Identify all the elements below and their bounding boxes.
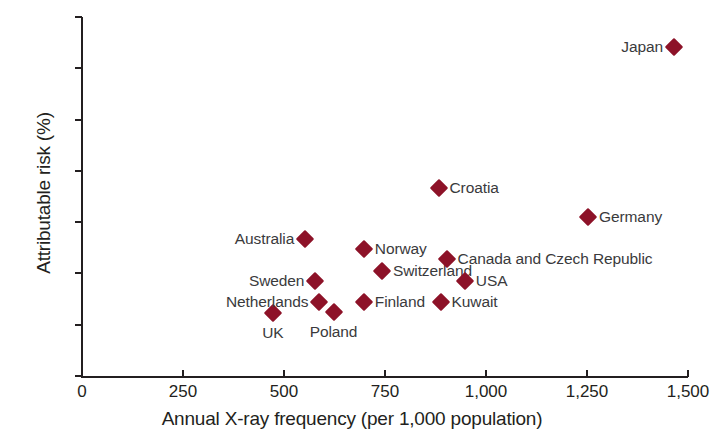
x-tick-mark: [283, 370, 285, 377]
data-point-marker[interactable]: [431, 293, 449, 311]
data-point-marker[interactable]: [296, 229, 314, 247]
x-tick-label: 500: [239, 382, 329, 402]
data-point-label: Poland: [310, 323, 358, 341]
data-point-marker[interactable]: [373, 262, 391, 280]
x-tick-label: 1,250: [542, 382, 632, 402]
data-point-marker[interactable]: [665, 38, 683, 56]
data-point-label: Kuwait: [452, 293, 498, 311]
x-tick-mark: [687, 370, 689, 377]
data-point-marker[interactable]: [306, 271, 324, 289]
y-tick-mark: [75, 324, 82, 326]
data-point-label: UK: [262, 324, 283, 342]
y-tick-mark: [75, 119, 82, 121]
y-tick-mark: [75, 170, 82, 172]
data-point-marker[interactable]: [355, 240, 373, 258]
y-tick-mark: [75, 67, 82, 69]
data-point-label: Croatia: [450, 179, 499, 197]
data-point-label: Netherlands: [226, 293, 308, 311]
y-axis-title: Attributable risk (%): [33, 3, 55, 383]
data-point-label: Finland: [375, 293, 425, 311]
data-point-label: Japan: [621, 38, 663, 56]
y-tick-mark: [75, 272, 82, 274]
data-point-label: Sweden: [249, 272, 304, 290]
x-tick-label: 1,000: [441, 382, 531, 402]
data-point-marker[interactable]: [324, 303, 342, 321]
data-point-marker[interactable]: [429, 179, 447, 197]
x-tick-mark: [586, 370, 588, 377]
x-tick-mark: [384, 370, 386, 377]
x-tick-label: 750: [340, 382, 430, 402]
data-point-label: USA: [476, 272, 508, 290]
plot-area: 00.51.01.52.02.53.03.5 02505007501,0001,…: [81, 17, 687, 377]
x-tick-label: 250: [138, 382, 228, 402]
data-point-label: Canada and Czech Republic: [458, 250, 653, 268]
data-point-label: Germany: [599, 208, 662, 226]
x-tick-mark: [485, 370, 487, 377]
x-axis-title: Annual X-ray frequency (per 1,000 popula…: [0, 408, 704, 430]
x-tick-label: 0: [37, 382, 127, 402]
data-point-marker[interactable]: [310, 293, 328, 311]
x-tick-mark: [182, 370, 184, 377]
x-tick-label: 1,500: [643, 382, 714, 402]
data-point-marker[interactable]: [579, 208, 597, 226]
x-tick-mark: [81, 370, 83, 377]
data-point-marker[interactable]: [355, 293, 373, 311]
data-point-label: Australia: [235, 230, 294, 248]
y-tick-mark: [75, 221, 82, 223]
data-point-label: Norway: [375, 240, 427, 258]
y-tick-mark: [75, 16, 82, 18]
